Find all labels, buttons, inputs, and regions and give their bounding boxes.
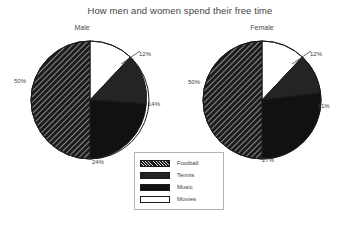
male-slice-football — [31, 41, 90, 159]
legend-label-movies: Movies — [177, 196, 196, 202]
legend-item-tennis: Tennis — [140, 169, 218, 181]
chart-legend: Football Tennis Music Movies — [134, 152, 224, 210]
male-panel-label: Male — [42, 24, 122, 31]
legend-item-movies: Movies — [140, 193, 218, 205]
female-slice-football — [203, 41, 262, 159]
legend-label-football: Football — [177, 160, 198, 166]
pie-chart-figure: How men and women spend their free time … — [0, 0, 360, 230]
male-label-tennis: 14% — [148, 101, 160, 107]
female-label-football: 50% — [188, 79, 200, 85]
legend-item-football: Football — [140, 157, 218, 169]
tennis-solid-swatch — [140, 172, 170, 179]
male-label-football: 50% — [14, 78, 26, 84]
football-hatched-swatch — [140, 160, 170, 167]
chart-title: How men and women spend their free time — [0, 5, 360, 16]
legend-label-tennis: Tennis — [177, 172, 194, 178]
female-label-tennis: 11% — [318, 103, 330, 109]
legend-label-music: Music — [177, 184, 193, 190]
female-label-movies: 12% — [310, 51, 322, 57]
male-label-music: 24% — [92, 159, 104, 165]
movies-white-swatch — [140, 196, 170, 203]
female-label-music: 27% — [262, 157, 274, 163]
female-panel-label: Female — [222, 24, 302, 31]
male-slice-music — [90, 100, 146, 159]
male-pie — [28, 38, 152, 162]
female-slice-music — [262, 93, 321, 159]
male-pie-svg — [28, 38, 152, 162]
female-pie — [200, 38, 324, 162]
female-pie-svg — [200, 38, 324, 162]
legend-item-music: Music — [140, 181, 218, 193]
music-solid-swatch — [140, 184, 170, 191]
male-label-movies: 12% — [139, 51, 151, 57]
